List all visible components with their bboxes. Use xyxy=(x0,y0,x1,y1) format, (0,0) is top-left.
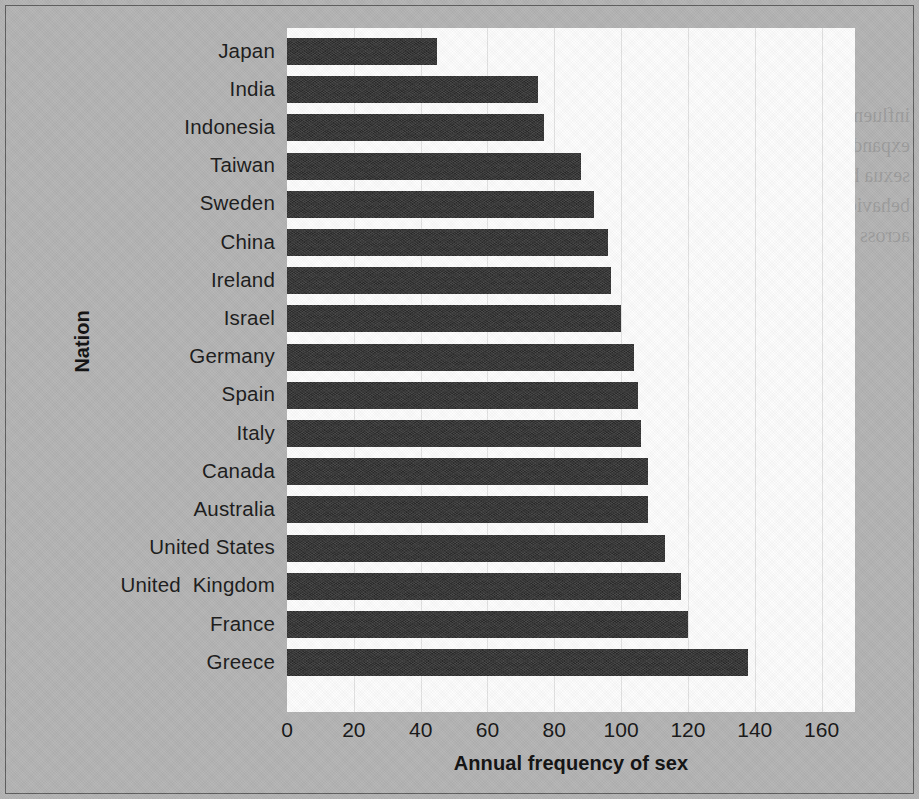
gridline xyxy=(755,28,756,712)
bar xyxy=(287,114,544,141)
bar xyxy=(287,267,611,294)
bar xyxy=(287,305,621,332)
bar-fill xyxy=(287,420,641,447)
bar-fill xyxy=(287,76,538,103)
bar-fill xyxy=(287,344,634,371)
bar-fill xyxy=(287,38,437,65)
x-tick-label: 120 xyxy=(658,718,718,742)
category-label: India xyxy=(15,77,275,101)
bar xyxy=(287,38,437,65)
bar-fill xyxy=(287,458,648,485)
category-label: Sweden xyxy=(15,191,275,215)
chart-figure: influence Katigbak, 1995 transaction (se… xyxy=(0,0,919,799)
bar xyxy=(287,535,665,562)
bar-fill xyxy=(287,267,611,294)
bar-fill xyxy=(287,153,581,180)
category-label: Spain xyxy=(15,382,275,406)
bar-fill xyxy=(287,649,748,676)
bar-fill xyxy=(287,611,688,638)
category-label: United Kingdom xyxy=(15,573,275,597)
bar xyxy=(287,229,608,256)
x-tick-label: 100 xyxy=(591,718,651,742)
bar-fill xyxy=(287,191,594,218)
category-label: Indonesia xyxy=(15,115,275,139)
bar xyxy=(287,420,641,447)
category-label: Israel xyxy=(15,306,275,330)
category-label: United States xyxy=(15,535,275,559)
category-label: Greece xyxy=(15,650,275,674)
category-label: Germany xyxy=(15,344,275,368)
x-axis-title: Annual frequency of sex xyxy=(287,752,855,775)
gridline xyxy=(688,28,689,712)
category-label: Japan xyxy=(15,39,275,63)
bar xyxy=(287,573,681,600)
category-label: Ireland xyxy=(15,268,275,292)
category-label: China xyxy=(15,230,275,254)
x-tick-label: 140 xyxy=(725,718,785,742)
bar-fill xyxy=(287,114,544,141)
bar-fill xyxy=(287,229,608,256)
bar-fill xyxy=(287,305,621,332)
bar-fill xyxy=(287,496,648,523)
y-axis-title: Nation xyxy=(71,272,94,412)
x-tick-label: 20 xyxy=(324,718,384,742)
category-label: Taiwan xyxy=(15,153,275,177)
bar xyxy=(287,191,594,218)
bar xyxy=(287,649,748,676)
category-label: Canada xyxy=(15,459,275,483)
bar xyxy=(287,76,538,103)
bar-fill xyxy=(287,573,681,600)
x-tick-label: 80 xyxy=(524,718,584,742)
bar xyxy=(287,458,648,485)
bar xyxy=(287,496,648,523)
x-tick-label: 40 xyxy=(391,718,451,742)
x-tick-label: 60 xyxy=(457,718,517,742)
category-label: Italy xyxy=(15,421,275,445)
bar xyxy=(287,344,634,371)
bar xyxy=(287,382,638,409)
bar xyxy=(287,611,688,638)
x-tick-label: 0 xyxy=(257,718,317,742)
bar-fill xyxy=(287,382,638,409)
category-label: Australia xyxy=(15,497,275,521)
gridline xyxy=(822,28,823,712)
plot-area xyxy=(287,28,855,712)
category-label: France xyxy=(15,612,275,636)
x-tick-label: 160 xyxy=(792,718,852,742)
bar xyxy=(287,153,581,180)
bar-fill xyxy=(287,535,665,562)
